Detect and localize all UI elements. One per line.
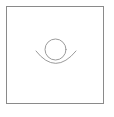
square-border	[7, 7, 104, 104]
image-canvas: Line art icon in square frame An unfille…	[0, 0, 114, 117]
circle-outline-icon	[45, 39, 66, 60]
bowl-arc-icon	[36, 51, 76, 64]
line-art-figure	[0, 0, 114, 117]
